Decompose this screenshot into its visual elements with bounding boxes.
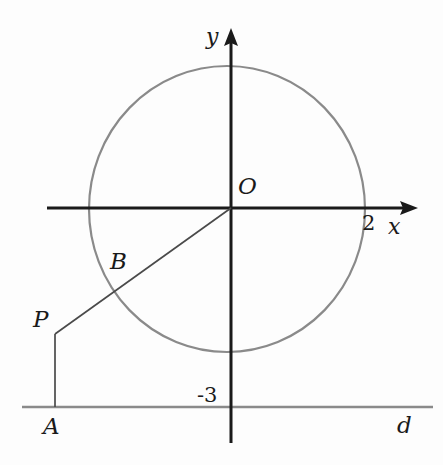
point-p-label: P [33, 308, 48, 331]
point-b-label: B [110, 250, 127, 273]
x-tick-2-label: 2 [362, 213, 375, 234]
y-axis-label: y [206, 26, 218, 48]
segment-p-to-o [55, 208, 231, 334]
figure-canvas [0, 0, 443, 465]
x-axis-label: x [388, 216, 400, 238]
line-d-label: d [397, 414, 412, 437]
y-tick-minus3-label: -3 [197, 385, 217, 406]
geometry-figure: y x O 2 -3 P A B d [0, 0, 443, 465]
point-a-label: A [43, 415, 60, 438]
origin-label: O [238, 175, 257, 198]
